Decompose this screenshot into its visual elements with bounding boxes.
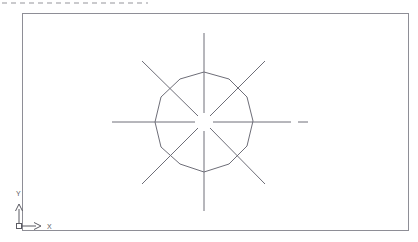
centerline-diagonal-up-right bbox=[210, 61, 265, 116]
ucs-y-axis-label: Y bbox=[16, 190, 21, 197]
ucs-x-axis-label: X bbox=[47, 223, 52, 230]
drawing-page: X Y bbox=[0, 0, 418, 242]
cad-canvas[interactable]: X Y bbox=[0, 0, 418, 242]
ucs-origin-square bbox=[17, 224, 22, 229]
centerline-diagonal-down-left bbox=[142, 128, 198, 184]
centerline-diagonal-down-right bbox=[210, 128, 265, 184]
radial-centerlines-group bbox=[112, 33, 308, 211]
centerline-diagonal-up-left bbox=[142, 61, 198, 116]
ucs-coordinate-icon: X Y bbox=[16, 190, 53, 230]
